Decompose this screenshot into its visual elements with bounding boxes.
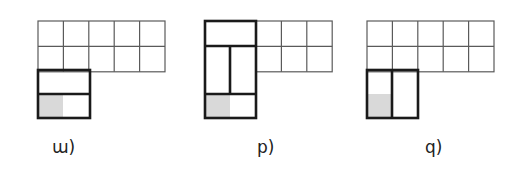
shaded-cell bbox=[368, 94, 392, 117]
figure-c bbox=[367, 21, 494, 118]
figure-b-label: p) bbox=[257, 139, 274, 156]
figure-a bbox=[38, 21, 165, 118]
figure-b bbox=[205, 21, 332, 118]
shaded-cell bbox=[39, 95, 63, 117]
shaded-cell bbox=[206, 95, 230, 117]
figure-c-label: q) bbox=[425, 139, 442, 156]
figure-a-label: ɯ) bbox=[52, 139, 75, 156]
